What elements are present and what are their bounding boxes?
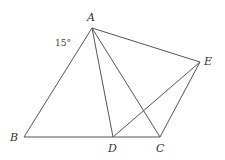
segment-ec (160, 62, 200, 137)
label-b: B (9, 131, 18, 144)
segment-ae (92, 28, 200, 62)
label-c: C (156, 142, 165, 155)
angle-label: 15° (55, 38, 71, 48)
label-a: A (86, 11, 95, 24)
label-d: D (107, 142, 117, 155)
label-e: E (203, 55, 212, 68)
segment-ed (113, 62, 200, 137)
geometry-diagram: A B C D E 15° (0, 0, 225, 160)
